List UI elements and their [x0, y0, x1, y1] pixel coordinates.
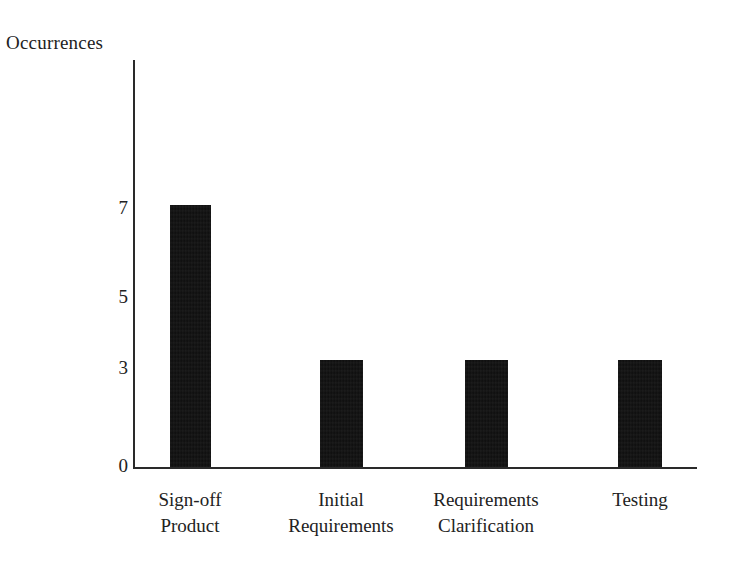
- category-label-line: Requirements: [386, 487, 586, 513]
- category-label-line: Testing: [560, 487, 720, 513]
- y-tick-label: 7: [100, 198, 128, 217]
- bar-requirements-clarification: [465, 360, 508, 467]
- y-axis-title: Occurrences: [6, 32, 103, 54]
- y-tick-label: 0: [100, 456, 128, 475]
- y-tick-label: 5: [100, 287, 128, 306]
- category-label-line: Clarification: [386, 513, 586, 539]
- x-axis-line: [133, 467, 697, 469]
- y-axis-line: [133, 60, 135, 469]
- bar-chart: Occurrences 7 5 3 0 Sign-off Product Ini…: [0, 0, 730, 584]
- bar-initial-requirements: [320, 360, 363, 467]
- y-tick-label: 3: [100, 358, 128, 377]
- category-label-requirements-clarification: Requirements Clarification: [386, 487, 586, 539]
- bar-testing: [618, 360, 662, 467]
- category-label-testing: Testing: [560, 487, 720, 513]
- bar-sign-off-product: [170, 205, 211, 467]
